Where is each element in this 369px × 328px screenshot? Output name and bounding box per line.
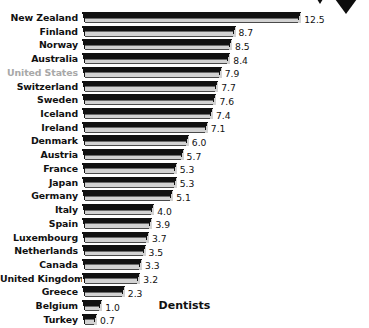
bar-right-cap — [233, 26, 236, 37]
bar-right-cap — [139, 259, 142, 270]
bar-front-face — [82, 18, 298, 24]
category-label: Germany — [0, 189, 78, 203]
bar-right-cap — [174, 163, 177, 174]
bar — [82, 12, 298, 24]
chart-row: Austria5.7 — [0, 148, 369, 162]
bar-left-cap — [82, 12, 85, 23]
bar-left-cap — [82, 232, 85, 243]
bar-right-cap — [170, 190, 173, 201]
category-label: Austria — [0, 148, 78, 162]
category-label: Netherlands — [0, 244, 78, 258]
bar-left-cap — [82, 245, 85, 256]
chart-row: New Zealand12.5 — [0, 11, 369, 25]
bar-front-face — [82, 182, 174, 188]
category-label: Ireland — [0, 121, 78, 135]
chart-row: Italy4.0 — [0, 203, 369, 217]
bar-left-cap — [82, 259, 85, 270]
bar-front-face — [82, 168, 174, 174]
bar-right-cap — [151, 204, 154, 215]
bar-right-cap — [227, 53, 230, 64]
bar-right-cap — [210, 108, 213, 119]
bar-value-label: 0.7 — [100, 314, 115, 328]
category-label: Denmark — [0, 134, 78, 148]
bar-right-cap — [229, 39, 232, 50]
bar-front-face — [82, 127, 205, 133]
bar — [82, 232, 146, 244]
bar-right-cap — [186, 135, 189, 146]
bar-front-face — [82, 223, 149, 229]
bar-front-face — [82, 86, 215, 92]
bar-left-cap — [82, 94, 85, 105]
bar-front-face — [82, 210, 151, 216]
bar — [82, 108, 210, 120]
chart-row: Switzerland7.7 — [0, 80, 369, 94]
chart-row: Greece2.3 — [0, 285, 369, 299]
chart-row: Canada3.3 — [0, 258, 369, 272]
bar-left-cap — [82, 26, 85, 37]
bar — [82, 67, 219, 79]
bar-front-face — [82, 237, 146, 243]
bar-left-cap — [82, 135, 85, 146]
bar — [82, 149, 181, 161]
category-label: Switzerland — [0, 80, 78, 94]
bar-front-face — [82, 251, 143, 257]
category-label: Italy — [0, 203, 78, 217]
x-axis-title: Dentists — [0, 299, 369, 312]
category-label: Norway — [0, 38, 78, 52]
bar — [82, 314, 94, 326]
category-label: Finland — [0, 25, 78, 39]
bar-right-cap — [122, 286, 125, 297]
chart-plot-area: New Zealand12.5Finland8.7Norway8.5Austra… — [0, 11, 369, 327]
bar — [82, 177, 174, 189]
bar-left-cap — [82, 286, 85, 297]
bar — [82, 94, 213, 106]
chart-row: Turkey0.7 — [0, 313, 369, 327]
category-label: Canada — [0, 258, 78, 272]
bar-left-cap — [82, 149, 85, 160]
bar — [82, 26, 233, 38]
bar-front-face — [82, 155, 181, 161]
chart-row: Sweden7.6 — [0, 93, 369, 107]
bar-left-cap — [82, 39, 85, 50]
bar — [82, 218, 149, 230]
bar-right-cap — [137, 273, 140, 284]
bar-front-face — [82, 100, 213, 106]
bar — [82, 163, 174, 175]
bar-left-cap — [82, 190, 85, 201]
bar-left-cap — [82, 81, 85, 92]
bar-right-cap — [215, 81, 218, 92]
bar-right-cap — [143, 245, 146, 256]
category-label: Iceland — [0, 107, 78, 121]
chart-row: France5.3 — [0, 162, 369, 176]
bar-left-cap — [82, 273, 85, 284]
bar-left-cap — [82, 314, 85, 325]
bar — [82, 259, 139, 271]
bar-left-cap — [82, 122, 85, 133]
bar — [82, 245, 143, 257]
bar-front-face — [82, 278, 137, 284]
bar — [82, 135, 186, 147]
bar-right-cap — [205, 122, 208, 133]
chart-row: Luxembourg3.7 — [0, 231, 369, 245]
category-label: Greece — [0, 285, 78, 299]
bar-left-cap — [82, 204, 85, 215]
chart-row: Spain3.9 — [0, 217, 369, 231]
bar-front-face — [82, 59, 227, 65]
bar-right-cap — [213, 94, 216, 105]
chart-row: United States7.9 — [0, 66, 369, 80]
chart-row: Japan5.3 — [0, 176, 369, 190]
chart-row: Australia8.4 — [0, 52, 369, 66]
bar-left-cap — [82, 108, 85, 119]
chart-row: Denmark6.0 — [0, 134, 369, 148]
bar — [82, 122, 205, 134]
category-label: New Zealand — [0, 11, 78, 25]
bar-left-cap — [82, 67, 85, 78]
category-label: France — [0, 162, 78, 176]
bar-right-cap — [149, 218, 152, 229]
bar-left-cap — [82, 177, 85, 188]
category-label: Luxembourg — [0, 231, 78, 245]
chart-row: Germany5.1 — [0, 189, 369, 203]
category-label: Japan — [0, 176, 78, 190]
category-label: Turkey — [0, 313, 78, 327]
